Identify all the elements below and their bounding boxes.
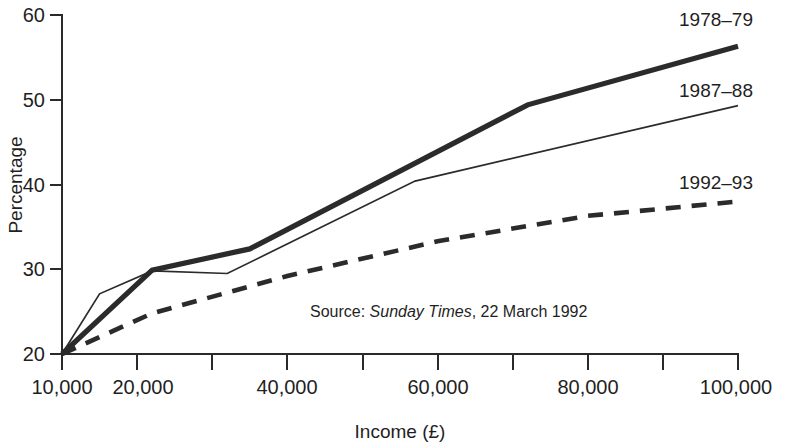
series-line-1992-93	[62, 201, 738, 354]
line-chart-svg: 60 50 40 30 20 10,000 20,000 40,000 60,0…	[0, 0, 790, 446]
source-annotation: Source: Sunday Times, 22 March 1992	[310, 303, 587, 320]
x-axis-title: Income (£)	[355, 421, 446, 442]
source-publication: Sunday Times	[370, 303, 472, 320]
y-tick-label-20: 20	[23, 343, 45, 365]
series-label-1987-88: 1987–88	[679, 80, 753, 101]
source-prefix: Source:	[310, 303, 370, 320]
x-tick-label-100000: 100,000	[700, 376, 772, 398]
source-suffix: , 22 March 1992	[472, 303, 588, 320]
x-tick-label-20000: 20,000	[112, 376, 173, 398]
x-tick-marks	[62, 354, 738, 370]
x-tick-label-40000: 40,000	[256, 376, 317, 398]
y-axis-title: Percentage	[5, 136, 26, 233]
x-tick-label-60000: 60,000	[407, 376, 468, 398]
x-tick-labels: 10,000 20,000 40,000 60,000 80,000 100,0…	[31, 376, 772, 398]
y-tick-marks	[50, 15, 62, 354]
series-end-labels: 1978–79 1987–88 1992–93	[679, 9, 753, 193]
y-tick-label-40: 40	[23, 174, 45, 196]
series-label-1978-79: 1978–79	[679, 9, 753, 30]
y-tick-label-30: 30	[23, 258, 45, 280]
y-tick-labels: 60 50 40 30 20	[23, 4, 45, 365]
series-label-1992-93: 1992–93	[679, 172, 753, 193]
x-tick-label-80000: 80,000	[557, 376, 618, 398]
chart-figure: 60 50 40 30 20 10,000 20,000 40,000 60,0…	[0, 0, 790, 446]
y-tick-label-50: 50	[23, 89, 45, 111]
y-tick-label-60: 60	[23, 4, 45, 26]
x-tick-label-10000: 10,000	[31, 376, 92, 398]
